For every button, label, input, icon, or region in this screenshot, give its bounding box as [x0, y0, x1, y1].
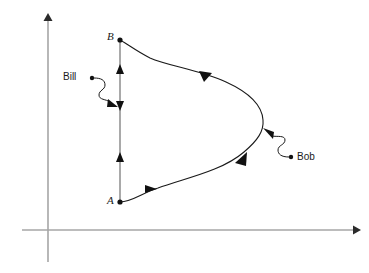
curved-path-bob-line	[120, 40, 263, 202]
point-a-label: A	[107, 195, 114, 206]
bill-label-dot	[90, 76, 94, 80]
point-a-dot	[117, 199, 122, 204]
path-arrow-marker-down-1	[116, 101, 124, 111]
bob-label-dot	[289, 155, 293, 159]
y-axis-arrow-icon	[44, 13, 53, 21]
path-arrow-marker-up-2	[116, 152, 124, 162]
bob-leader-squiggle	[272, 136, 289, 157]
curved-path-bob-group	[120, 40, 263, 202]
path-arrow-marker-up-1	[116, 64, 124, 74]
point-b-dot	[117, 37, 122, 42]
diagram-canvas	[0, 0, 369, 273]
bill-leader-squiggle	[94, 78, 110, 102]
straight-path-bill-group	[116, 38, 124, 204]
bill-leader-group	[90, 76, 118, 107]
x-axis-arrow-icon	[353, 226, 361, 235]
axes-group	[22, 13, 361, 262]
curve-arrow-marker-right	[145, 185, 157, 193]
bill-leader-arrowhead-icon	[107, 99, 118, 107]
math-path-diagram: Bill Bob A B	[0, 0, 369, 273]
bill-label: Bill	[63, 72, 76, 82]
point-b-label: B	[107, 31, 114, 42]
bob-label: Bob	[297, 152, 315, 162]
bob-leader-arrowhead-icon	[263, 128, 274, 139]
curve-arrow-marker-left	[199, 71, 212, 82]
bob-leader-group	[263, 128, 293, 159]
